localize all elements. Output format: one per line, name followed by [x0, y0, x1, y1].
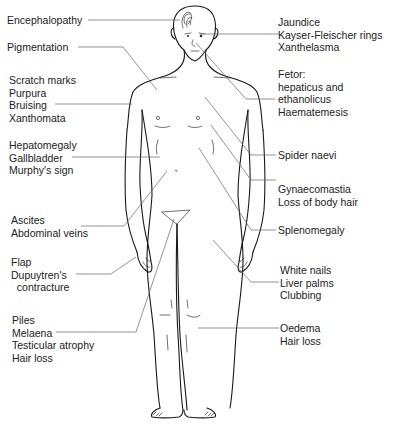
- label-line: Scratch marks: [9, 74, 76, 87]
- label-line: Spider naevi: [278, 149, 336, 162]
- label-line: Gynaecomastia: [278, 183, 358, 196]
- label-line: Melaena: [12, 327, 94, 340]
- label-pigmentation: Pigmentation: [7, 41, 68, 54]
- label-line: Abdominal veins: [11, 227, 88, 240]
- label-liver-signs: Hepatomegaly Gallbladder Murphy's sign: [9, 139, 77, 177]
- label-line: Fetor:: [278, 68, 348, 81]
- label-line: Loss of body hair: [278, 196, 358, 209]
- label-encephalopathy: Encephalopathy: [7, 14, 82, 27]
- label-line: Gallbladder: [9, 152, 77, 165]
- label-spider-naevi: Spider naevi: [278, 149, 336, 162]
- label-line: Liver palms: [280, 277, 334, 290]
- label-line: Jaundice: [278, 16, 382, 29]
- label-line: Clubbing: [280, 289, 334, 302]
- label-nail-palm-signs: White nails Liver palms Clubbing: [280, 264, 334, 302]
- label-line: Murphy's sign: [9, 164, 77, 177]
- label-line: Pigmentation: [7, 41, 68, 54]
- label-line: Oedema: [280, 322, 321, 335]
- label-line: Xanthelasma: [278, 41, 382, 54]
- label-hand-signs: Flap Dupuytren's contracture: [11, 256, 69, 294]
- label-line: Purpura: [9, 87, 76, 100]
- label-line: Flap: [11, 256, 69, 269]
- label-line: ethanolicus: [278, 93, 348, 106]
- label-line: Xanthomata: [9, 112, 76, 125]
- label-leg-signs: Oedema Hair loss: [280, 322, 321, 347]
- label-line: Splenomegaly: [278, 224, 345, 237]
- label-mouth-signs: Fetor: hepaticus and ethanolicus Haemate…: [278, 68, 348, 118]
- label-abdominal-signs: Ascites Abdominal veins: [11, 214, 88, 239]
- label-line: White nails: [280, 264, 334, 277]
- label-line: Hair loss: [12, 352, 94, 365]
- label-line: Piles: [12, 314, 94, 327]
- label-line: Testicular atrophy: [12, 339, 94, 352]
- label-line: contracture: [11, 281, 69, 294]
- label-skin-signs: Scratch marks Purpura Bruising Xanthomat…: [9, 74, 76, 124]
- label-line: Kayser-Fleischer rings: [278, 29, 382, 42]
- label-chest-signs: Gynaecomastia Loss of body hair: [278, 183, 358, 208]
- label-line: Ascites: [11, 214, 88, 227]
- label-splenomegaly: Splenomegaly: [278, 224, 345, 237]
- label-line: Encephalopathy: [7, 14, 82, 27]
- label-line: Hair loss: [280, 335, 321, 348]
- label-rectal-genital-signs: Piles Melaena Testicular atrophy Hair lo…: [12, 314, 94, 364]
- label-line: Dupuytren's: [11, 269, 69, 282]
- label-line: Bruising: [9, 99, 76, 112]
- label-line: Haematemesis: [278, 106, 348, 119]
- label-eye-signs: Jaundice Kayser-Fleischer rings Xanthela…: [278, 16, 382, 54]
- label-line: Hepatomegaly: [9, 139, 77, 152]
- label-line: hepaticus and: [278, 81, 348, 94]
